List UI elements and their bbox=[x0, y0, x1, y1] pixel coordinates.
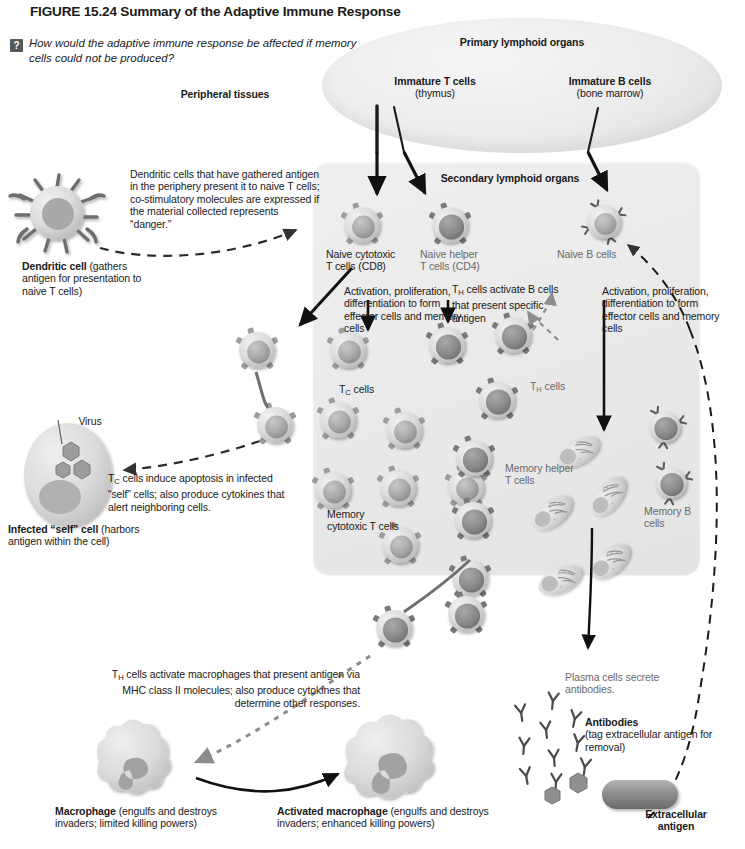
tc-effector-cell bbox=[235, 327, 278, 370]
macrophage-title: Macrophage bbox=[55, 805, 116, 817]
macrophage bbox=[97, 719, 170, 793]
plasma-cell bbox=[526, 489, 578, 537]
naive-helper-line1: Naive helper bbox=[420, 248, 478, 260]
immature-t-cells-label: Immature T cells (thymus) bbox=[345, 75, 525, 100]
extracellular-antigen-label: Extracellular antigen bbox=[630, 808, 722, 833]
naive-cytotoxic-t-cell bbox=[340, 202, 383, 245]
memory-b-cells-label: Memory B cells bbox=[644, 505, 714, 530]
immature-t-cells-site: (thymus) bbox=[415, 87, 455, 99]
activated-macrophage bbox=[344, 714, 433, 798]
plasma-cell bbox=[534, 559, 586, 601]
primary-lymphoid-organs-label: Primary lymphoid organs bbox=[392, 36, 652, 48]
dendritic-cell-title: Dendritic cell bbox=[22, 260, 87, 272]
dendritic-cell-label: Dendritic cell (gathers antigen for pres… bbox=[22, 260, 152, 297]
figure-title: FIGURE 15.24 Summary of the Adaptive Imm… bbox=[30, 6, 401, 18]
infected-self-cell bbox=[24, 423, 112, 527]
th-label-rest: cells bbox=[542, 380, 565, 392]
peripheral-tissues-label: Peripheral tissues bbox=[135, 88, 315, 100]
naive-helper-line2: T cells (CD4) bbox=[420, 260, 480, 272]
tc-apoptosis-rest: cells induce apoptosis in infected “self… bbox=[108, 472, 284, 513]
activation-right-text: Activation, proliferation, differentiati… bbox=[602, 285, 722, 335]
dendritic-cell bbox=[10, 175, 104, 252]
plasma-cells-secrete-label: Plasma cells secrete antibodies. bbox=[565, 671, 695, 696]
question-prompt-icon: ? bbox=[10, 39, 23, 52]
immature-b-cells-title: Immature B cells bbox=[569, 75, 651, 87]
immature-b-cells-site: (bone marrow) bbox=[577, 87, 644, 99]
naive-cytotoxic-t-label: Naive cytotoxic T cells (CD8) bbox=[326, 248, 426, 273]
memory-helper-t-cells-label: Memory helper T cells bbox=[505, 462, 575, 487]
immature-b-cells-label: Immature B cells (bone marrow) bbox=[520, 75, 700, 100]
immature-t-cells-title: Immature T cells bbox=[394, 75, 475, 87]
th-activates-b-text: TH cells activate B cells that present s… bbox=[452, 283, 572, 324]
naive-b-cells-label: Naive B cells bbox=[557, 248, 657, 260]
dendritic-description: Dendritic cells that have gathered antig… bbox=[130, 168, 320, 230]
tc-effector-cell bbox=[253, 402, 296, 445]
antibodies-label: Antibodies (tag extracellular antigen fo… bbox=[585, 716, 715, 753]
tc-label-rest: cells bbox=[351, 383, 374, 395]
th-cell bbox=[475, 377, 518, 420]
activated-macrophage-title: Activated macrophage bbox=[277, 805, 388, 817]
tc-cell bbox=[311, 467, 354, 510]
naive-helper-t-label: Naive helper T cells (CD4) bbox=[420, 248, 520, 273]
infected-self-cell-label: Infected “self” cell (harbors antigen wi… bbox=[8, 523, 158, 548]
virus-label: Virus bbox=[50, 415, 130, 427]
memory-tc-cell bbox=[376, 465, 419, 508]
naive-cytotoxic-line1: Naive cytotoxic bbox=[326, 248, 395, 260]
activated-macrophage-label: Activated macrophage (engulfs and destro… bbox=[277, 805, 492, 830]
naive-cytotoxic-line2: T cells (CD8) bbox=[326, 260, 386, 272]
antibodies-title: Antibodies bbox=[585, 716, 638, 728]
figure-question: How would the adaptive immune response b… bbox=[29, 36, 359, 65]
macrophage-label: Macrophage (engulfs and destroys invader… bbox=[55, 805, 255, 830]
naive-helper-t-cell bbox=[428, 202, 471, 245]
memory-th-cell bbox=[451, 497, 494, 540]
th-activates-macrophage-text: TH cells activate macrophages that prese… bbox=[108, 668, 360, 709]
tc-apoptosis-text: TC cells induce apoptosis in infected “s… bbox=[108, 472, 288, 513]
memory-b-cell bbox=[650, 407, 687, 448]
extracellular-antigen bbox=[545, 773, 678, 809]
th-mac-rest: cells activate macrophages that present … bbox=[122, 668, 360, 709]
th-cells-label: TH cells bbox=[530, 380, 600, 396]
activation-left-text: Activation, proliferation, differentiati… bbox=[344, 285, 464, 335]
infected-self-cell-title: Infected “self” cell bbox=[8, 523, 98, 535]
th-cell-outside bbox=[372, 605, 415, 648]
naive-b-cell bbox=[582, 200, 625, 244]
plasma-cell bbox=[584, 471, 632, 523]
tc-cell bbox=[382, 407, 425, 450]
secondary-lymphoid-organs-label: Secondary lymphoid organs bbox=[420, 172, 600, 184]
tc-cell bbox=[316, 397, 359, 440]
th-cell-outside bbox=[444, 591, 487, 634]
memory-b-cell bbox=[656, 463, 693, 504]
memory-cytotoxic-t-cells-label: Memory cytotoxic T cells bbox=[327, 508, 407, 533]
tc-cells-label: TC cells bbox=[339, 383, 409, 399]
th-act-rest: cells activate B cells that present spec… bbox=[452, 283, 558, 324]
antibodies-caption: (tag extracellular antigen for removal) bbox=[585, 728, 712, 752]
